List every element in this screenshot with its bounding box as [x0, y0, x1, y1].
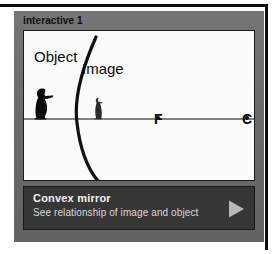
play-button[interactable] [228, 200, 245, 218]
image-label: Image [82, 60, 124, 77]
caption-title: Convex mirror [33, 192, 111, 204]
page-frame-top-rule [0, 4, 268, 7]
center-of-curvature-label: C [242, 111, 252, 127]
interactive-module: interactive 1 [14, 11, 264, 242]
object-label: Object [34, 48, 77, 65]
object-penguin-icon [34, 88, 53, 119]
module-title: interactive 1 [23, 14, 83, 28]
focal-point-label: F [154, 111, 163, 127]
interactive-caption-bar[interactable]: Convex mirror See relationship of image … [23, 186, 255, 230]
optics-diagram-stage[interactable]: Object Image F C [23, 30, 255, 181]
image-penguin-icon [94, 98, 102, 120]
caption-subtitle: See relationship of image and object [33, 207, 198, 218]
convex-mirror-arc [76, 37, 98, 180]
page-frame-right-rule [265, 4, 268, 250]
play-triangle-icon [228, 200, 245, 218]
